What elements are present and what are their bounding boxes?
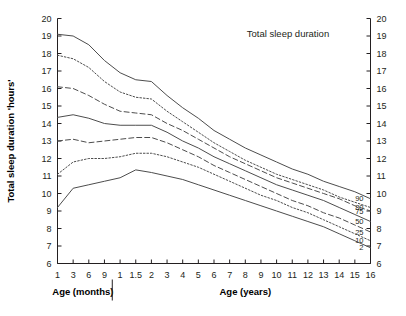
- x-tick-label: 15: [350, 270, 360, 280]
- y-tick-label-left: 8: [46, 224, 51, 234]
- plot-title: Total sleep duration: [247, 28, 329, 39]
- y-tick-label-left: 20: [41, 14, 51, 24]
- x-axis-title-months: Age (months): [52, 286, 113, 297]
- x-tick-label: 3: [165, 270, 170, 280]
- y-tick-label-right: 9: [377, 206, 382, 216]
- y-tick-label-right: 15: [377, 101, 387, 111]
- y-tick-label-left: 15: [41, 101, 51, 111]
- percentile-label-75: 75: [355, 207, 363, 216]
- y-tick-label-left: 12: [41, 154, 51, 164]
- percentile-curve-75: [58, 87, 371, 211]
- y-tick-label-right: 20: [377, 14, 387, 24]
- y-tick-label-left: 10: [41, 189, 51, 199]
- y-tick-label-right: 17: [377, 66, 387, 76]
- y-tick-label-left: 18: [41, 49, 51, 59]
- y-tick-label-right: 6: [377, 259, 382, 269]
- x-tick-label: 1: [118, 270, 123, 280]
- y-tick-label-left: 11: [42, 171, 51, 181]
- y-tick-label-left: 16: [41, 84, 51, 94]
- x-tick-label: 6: [86, 270, 91, 280]
- x-tick-label: 12: [303, 270, 313, 280]
- x-tick-label: 2: [149, 270, 154, 280]
- y-tick-label-left: 17: [41, 66, 51, 76]
- y-tick-label-right: 13: [377, 136, 387, 146]
- y-tick-label-right: 10: [377, 189, 387, 199]
- x-tick-label: 8: [243, 270, 248, 280]
- y-tick-label-left: 14: [41, 119, 51, 129]
- x-tick-label: 5: [196, 270, 201, 280]
- x-tick-label: 16: [365, 270, 375, 280]
- x-tick-label: 9: [258, 270, 263, 280]
- y-tick-label-right: 19: [377, 31, 387, 41]
- x-tick-label: 4: [180, 270, 185, 280]
- y-tick-label-right: 18: [377, 49, 387, 59]
- x-tick-label: 1: [55, 270, 60, 280]
- x-tick-label: 14: [334, 270, 344, 280]
- percentile-curve-80: [58, 55, 371, 207]
- percentile-curve-25: [58, 138, 371, 233]
- y-tick-label-right: 16: [377, 84, 387, 94]
- x-tick-label: 6: [211, 270, 216, 280]
- y-tick-label-left: 19: [41, 31, 51, 41]
- x-tick-label: 11: [288, 270, 297, 280]
- y-tick-label-right: 14: [377, 119, 387, 129]
- x-tick-label: 10: [272, 270, 282, 280]
- y-tick-label-left: 6: [46, 259, 51, 269]
- x-axis-title-years: Age (years): [220, 286, 272, 297]
- y-tick-label-right: 7: [377, 241, 382, 251]
- percentile-label-2: 2: [359, 243, 363, 252]
- chart-svg: 6789101112131415161718192067891011121314…: [0, 0, 406, 316]
- x-tick-label: 9: [102, 270, 107, 280]
- x-tick-label: 13: [319, 270, 329, 280]
- y-tick-label-left: 13: [41, 136, 51, 146]
- x-tick-label: 1.5: [129, 270, 142, 280]
- x-tick-label: 3: [71, 270, 76, 280]
- y-tick-label-left: 7: [46, 241, 51, 251]
- percentile-label-90: 90: [355, 194, 363, 203]
- percentile-label-50: 50: [355, 217, 363, 226]
- y-axis-title: Total sleep duration 'hours': [5, 79, 16, 202]
- total-sleep-duration-chart: 6789101112131415161718192067891011121314…: [0, 0, 406, 316]
- y-tick-label-right: 8: [377, 224, 382, 234]
- x-tick-label: 7: [227, 270, 232, 280]
- percentile-curve-10: [58, 153, 371, 241]
- y-tick-label-right: 11: [377, 171, 386, 181]
- y-tick-label-left: 9: [46, 206, 51, 216]
- y-tick-label-right: 12: [377, 154, 387, 164]
